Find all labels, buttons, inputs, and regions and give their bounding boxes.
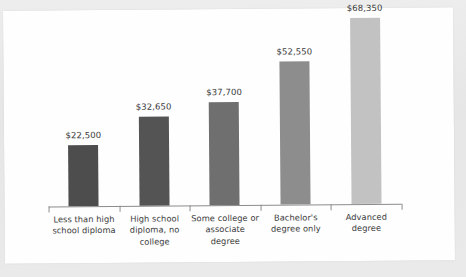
bar-value-label: $37,700 [206, 87, 242, 97]
bar-value-label: $32,650 [136, 101, 172, 111]
axis-tick [119, 206, 120, 212]
category-label: Bachelor'sdegree only [260, 212, 331, 235]
bar-group: $37,700 [188, 9, 260, 206]
axis-tick [49, 206, 50, 212]
bar-group: $32,650 [118, 9, 190, 206]
bar-group: $52,550 [259, 8, 331, 205]
bar [139, 116, 170, 205]
bar [280, 61, 311, 204]
bar-series: $22,500 $32,650 $37,700 $52,550 $68,350 [47, 8, 402, 207]
axis-tick [260, 205, 261, 211]
category-labels: Less than highschool diploma High school… [49, 212, 402, 263]
bar-group: $68,350 [329, 8, 401, 205]
bar-group: $22,500 [47, 10, 119, 207]
screenshot-frame: $22,500 $32,650 $37,700 $52,550 $68,350 [0, 0, 466, 277]
bar [209, 102, 240, 205]
category-label: Some college orassociatedegree [190, 213, 261, 247]
category-label: Less than highschool diploma [49, 214, 120, 237]
category-label: Advanceddegree [331, 212, 402, 235]
bar-value-label: $22,500 [65, 130, 101, 140]
bar-chart: $22,500 $32,650 $37,700 $52,550 $68,350 [3, 7, 455, 264]
axis-tick [331, 204, 332, 210]
bar-value-label: $52,550 [276, 46, 312, 56]
axis-tick [190, 205, 191, 211]
bar-value-label: $68,350 [347, 3, 383, 13]
scanned-page: $22,500 $32,650 $37,700 $52,550 $68,350 [3, 7, 455, 264]
bar [68, 145, 98, 206]
axis-tick [402, 204, 403, 210]
bar [350, 18, 381, 204]
category-label: High schooldiploma, nocollege [119, 213, 190, 247]
